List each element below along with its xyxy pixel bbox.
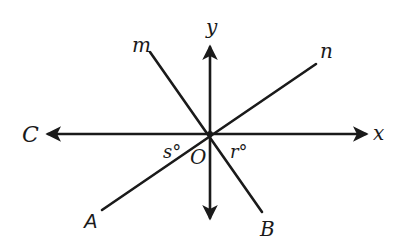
label-x: x [373, 121, 384, 145]
label-O: O [190, 145, 206, 169]
label-y: y [205, 15, 218, 39]
geometry-diagram: y m n C x s° O r° A B [0, 0, 394, 251]
label-r-angle: r° [230, 141, 248, 162]
line-mB [150, 52, 262, 212]
label-s-angle: s° [163, 141, 181, 162]
label-A: A [83, 210, 97, 232]
label-B: B [259, 217, 275, 241]
label-m: m [132, 33, 151, 57]
label-C: C [22, 122, 39, 147]
origin-point [207, 131, 213, 137]
label-n: n [320, 39, 333, 63]
